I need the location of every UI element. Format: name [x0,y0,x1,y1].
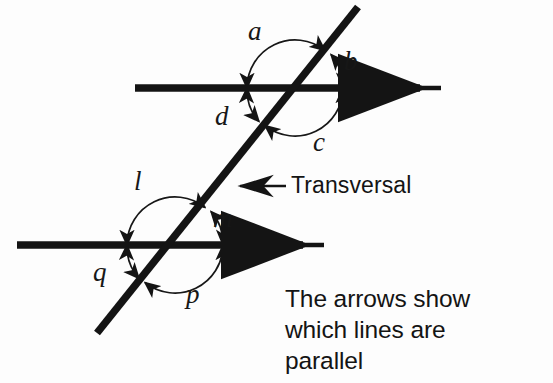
angle-label-q: q [93,259,107,286]
arc-q [127,245,139,279]
caption-line-3: parallel [285,345,470,376]
angle-label-d: d [215,103,229,130]
arc-d [247,88,259,122]
caption-line-2: which lines are [285,314,470,345]
angle-label-l: l [134,168,142,195]
caption-line-1: The arrows show [285,283,470,314]
angle-label-p: p [186,281,200,308]
angle-label-m: m [213,205,233,232]
geometry-diagram [0,0,553,383]
arc-l [127,197,205,245]
angle-label-b: b [344,48,358,75]
angle-label-a: a [248,18,262,45]
transversal-label: Transversal [291,172,411,199]
arc-b [331,55,343,89]
arc-p [145,245,223,293]
caption-block: The arrows show which lines are parallel [285,283,470,376]
angle-label-c: c [313,129,325,156]
figure-canvas: a b c d l m p q Transversal The arrows s… [0,0,553,383]
